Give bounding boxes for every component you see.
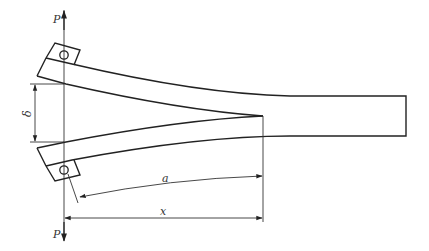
crack-length-label: a — [162, 172, 169, 185]
lower-pivot-block — [46, 160, 80, 181]
load-line-distance-label: x — [160, 205, 167, 218]
dcb-specimen-diagram: P P — [0, 0, 429, 251]
load-label-top: P — [52, 13, 61, 26]
lower-arm — [37, 116, 293, 166]
uncracked-ligament — [293, 96, 406, 136]
opening-displacement-label: δ — [21, 110, 34, 117]
upper-arm — [37, 58, 293, 116]
load-label-bottom: P — [52, 228, 61, 241]
opening-displacement-dimension — [30, 84, 64, 142]
